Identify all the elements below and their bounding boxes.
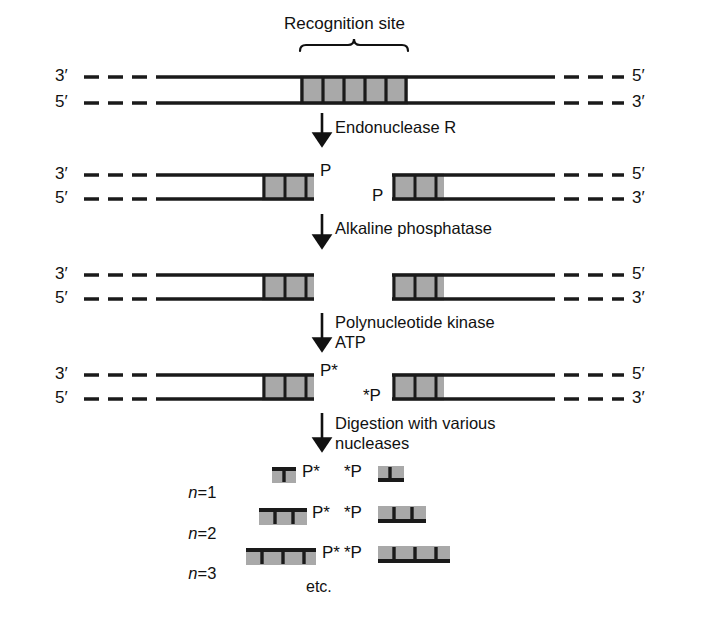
labeled-left-bottom-prime: 5′: [55, 388, 68, 408]
recognition-site-brace: [300, 39, 408, 51]
digest-n1-left-fragment: [272, 467, 296, 483]
digest-n3-value: 3: [207, 564, 216, 582]
digest-n3-label: n=3: [170, 545, 216, 603]
labeled-left-top-prime: 3′: [55, 364, 68, 384]
digest-n2-equals: =: [198, 524, 208, 542]
dephospho-left-fragment: [84, 274, 314, 301]
digest-n3-equals: =: [198, 564, 208, 582]
cleaved-left-phosphate-label: P: [320, 161, 331, 181]
digest-n1-left-phosphate-label: P*: [302, 462, 320, 482]
recognition-site-box: [300, 76, 408, 105]
bottom-note: etc.: [306, 578, 332, 597]
dephospho-left-top-prime: 3′: [55, 264, 68, 284]
labeled-right-bottom-prime: 3′: [632, 388, 645, 408]
digest-n2-value: 2: [207, 524, 216, 542]
cleaved-right-phosphate-label: P: [372, 186, 383, 206]
digest-n3-symbol: n: [188, 564, 197, 582]
labeled-right-top-prime: 5′: [632, 364, 645, 384]
step-digestion-label-line2: nucleases: [335, 434, 409, 453]
digest-n2-right-phosphate-label: *P: [344, 503, 362, 523]
step-digestion-label-line1: Digestion with various: [335, 414, 496, 433]
step-endonuclease-label: Endonuclease R: [335, 118, 456, 137]
digest-n3-left-fragment: [246, 548, 316, 565]
duplex-right-top-prime: 5′: [632, 66, 645, 86]
duplex-left-top-prime: 3′: [55, 66, 68, 86]
digest-n1-equals: =: [198, 483, 208, 501]
cleaved-left-bottom-prime: 5′: [55, 188, 68, 208]
cleaved-left-top-prime: 3′: [55, 164, 68, 184]
digest-n1-value: 1: [207, 483, 216, 501]
digest-n3-left-phosphate-label: P*: [322, 543, 340, 563]
digest-n2-right-fragment: [378, 506, 426, 523]
labeled-left-phosphate-label: P*: [320, 361, 338, 381]
labeled-right-fragment: [392, 374, 624, 401]
step-kinase-label-line1: Polynucleotide kinase: [335, 313, 495, 332]
page-title: Recognition site: [284, 14, 405, 34]
digest-n2-symbol: n: [188, 524, 197, 542]
cleaved-right-top-prime: 5′: [632, 164, 645, 184]
digest-n3-right-phosphate-label: *P: [344, 543, 362, 563]
dephospho-right-top-prime: 5′: [632, 264, 645, 284]
step-kinase-label-line2: ATP: [335, 333, 366, 352]
figure-canvas: Recognition site 3′ 5′ 5′ 3′ Endonucleas…: [0, 0, 703, 620]
dephospho-right-bottom-prime: 3′: [632, 288, 645, 308]
digest-n1-symbol: n: [188, 483, 197, 501]
cleaved-right-fragment: [392, 174, 624, 201]
duplex-right-bottom-prime: 3′: [632, 92, 645, 112]
digest-n2-left-fragment: [259, 508, 307, 525]
cleaved-left-fragment: [84, 174, 314, 201]
digest-n3-right-fragment: [378, 546, 450, 563]
labeled-left-fragment: [84, 374, 314, 401]
labeled-right-phosphate-label: *P: [363, 386, 381, 406]
digest-n1-right-phosphate-label: *P: [344, 462, 362, 482]
dephospho-right-fragment: [392, 274, 624, 301]
digest-n2-left-phosphate-label: P*: [312, 503, 330, 523]
digest-n1-right-fragment: [378, 466, 404, 482]
duplex-left-bottom-prime: 5′: [55, 92, 68, 112]
step-phosphatase-label: Alkaline phosphatase: [335, 219, 492, 238]
dephospho-left-bottom-prime: 5′: [55, 288, 68, 308]
diagram-svg: [0, 0, 703, 620]
cleaved-right-bottom-prime: 3′: [632, 188, 645, 208]
